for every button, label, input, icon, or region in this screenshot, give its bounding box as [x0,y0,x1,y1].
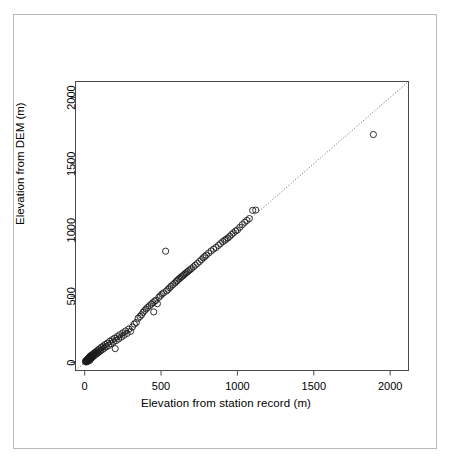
x-tick-label: 1000 [225,380,249,392]
x-tick-label: 0 [82,380,88,392]
identity-reference-line [76,82,409,371]
data-point-marker [112,346,118,352]
data-point-marker [370,131,376,137]
x-tick-label: 2000 [378,380,402,392]
y-tick-label: 500 [65,287,77,305]
y-axis-title: Elevation from DEM (m) [14,102,26,225]
y-tick-label: 0 [65,360,77,366]
data-points [82,131,376,365]
plot-stage: Elevation from station record (m) Elevat… [0,0,452,464]
x-tick-label: 500 [152,380,170,392]
y-tick-label: 1000 [65,218,77,242]
x-axis-title: Elevation from station record (m) [0,397,452,409]
reference-line-identity [76,82,409,371]
y-tick-label: 2000 [65,85,77,109]
y-tick-label: 1500 [65,152,77,176]
x-tick-label: 1500 [302,380,326,392]
data-point-marker [151,309,157,315]
data-point-marker [163,248,169,254]
